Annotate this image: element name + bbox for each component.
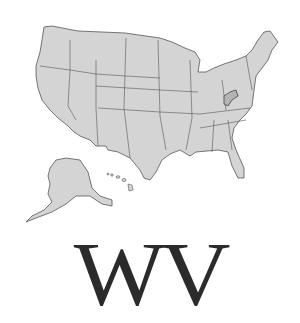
alaska-shape [26, 158, 112, 222]
us-map [0, 0, 300, 230]
state-abbreviation: WV [0, 228, 300, 320]
hawaii-shape [107, 173, 133, 191]
contiguous-us-shape [36, 26, 278, 180]
